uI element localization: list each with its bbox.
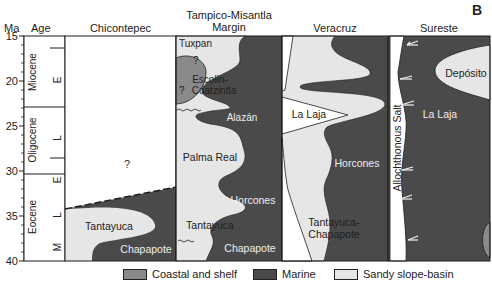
tick-25: 25 [6, 120, 18, 132]
label-palma-real: Palma Real [183, 151, 237, 163]
chicontepec-unknown: ? [124, 158, 130, 170]
label-coatzintla: Coatzintla [192, 85, 237, 96]
ma-tick-labels: 15 20 25 30 35 40 [6, 30, 18, 267]
label-alazan: Alazán [227, 112, 258, 123]
sub-miocene-e: E [52, 76, 63, 83]
tuxpan-unknown: ? [193, 55, 199, 66]
legend-swatch-coastal [123, 269, 147, 280]
label-horcones: Horcones [335, 157, 380, 169]
label-allochthonous-salt: Allochthonous Salt [391, 104, 403, 191]
legend-item-coastal: Coastal and shelf [123, 268, 237, 280]
epoch-eocene: Eocene [27, 200, 38, 234]
label-tantayuca: Tantayuca [186, 219, 234, 231]
legend-item-marine: Marine [253, 268, 316, 280]
legend-label-sandy: Sandy slope-basin [363, 268, 454, 280]
sub-eocene-m: M [52, 243, 63, 251]
tampico-column: Tuxpan ? ? Escolin- Coatzintla Alazán Pa… [176, 36, 282, 261]
sub-eocene-l: L [52, 212, 63, 218]
legend-item-sandy: Sandy slope-basin [334, 268, 454, 280]
label-chapapote: Chapapote [120, 243, 172, 255]
label-tuxpan: Tuxpan [179, 38, 212, 49]
ma-axis [19, 36, 24, 261]
tick-30: 30 [6, 165, 18, 177]
sub-oligocene-l: L [52, 135, 63, 141]
label-chapapote: Chapapote [308, 228, 360, 240]
label-tantayuca-hyphen: Tantayuca- [308, 216, 360, 228]
legend-label-marine: Marine [282, 268, 316, 280]
chicontepec-column: ? Tantayuca Chapapote [65, 36, 176, 261]
escolin-unknown: ? [179, 85, 185, 96]
label-horcones: Horcones [231, 194, 276, 206]
legend-swatch-sandy [334, 269, 358, 280]
epoch-miocene: Miocene [27, 53, 38, 91]
legend-swatch-marine [253, 269, 277, 280]
legend: Coastal and shelf Marine Sandy slope-bas… [0, 264, 492, 284]
legend-label-coastal: Coastal and shelf [152, 268, 237, 280]
label-tantayuca: Tantayuca [85, 220, 133, 232]
tick-15: 15 [6, 30, 18, 42]
stratigraphy-diagram: 15 20 25 30 35 40 Miocene Oligocene Eoce… [0, 0, 492, 287]
label-deposito: Depósito [445, 67, 487, 79]
epoch-oligocene: Oligocene [27, 117, 38, 162]
tick-35: 35 [6, 210, 18, 222]
tick-20: 20 [6, 75, 18, 87]
sureste-column: Allochthonous Salt Depósito La Laja [388, 36, 490, 261]
label-chapapote: Chapapote [224, 242, 276, 254]
label-la-laja: La Laja [292, 108, 327, 120]
label-la-laja: La Laja [423, 108, 458, 120]
label-escolin: Escolin- [192, 74, 228, 85]
veracruz-column: La Laja Horcones Tantayuca- Chapapote [282, 36, 388, 261]
sub-oligocene-e: E [52, 176, 63, 183]
